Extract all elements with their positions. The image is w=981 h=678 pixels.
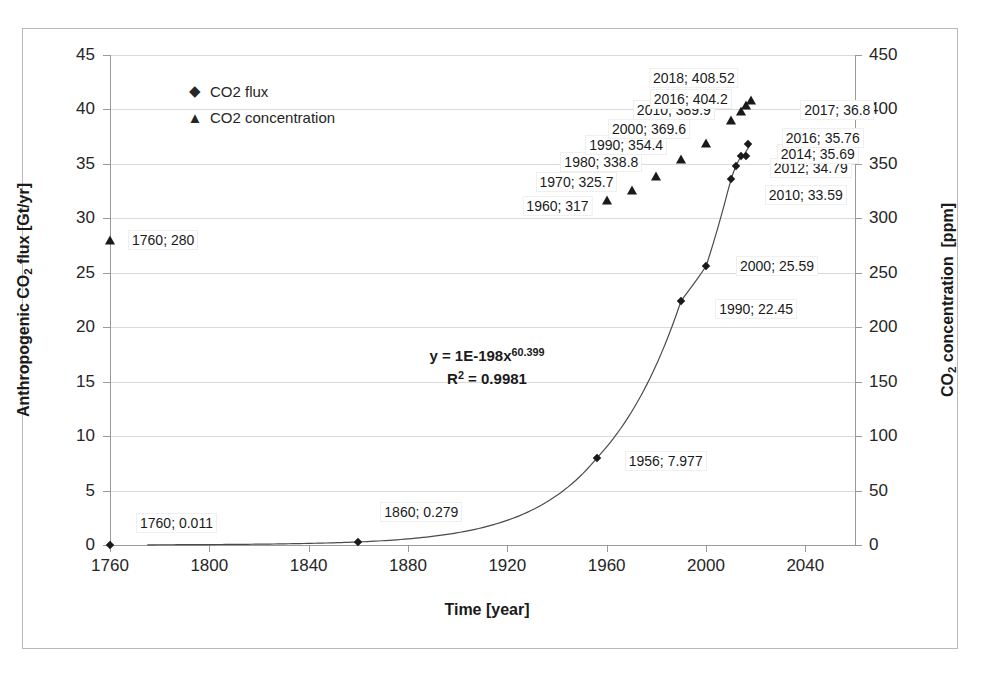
data-point-triangle (701, 138, 711, 147)
x-axis-tick-label: 2000 (687, 556, 725, 576)
y-axis-left-tick (103, 382, 110, 383)
y-axis-left-tick (103, 218, 110, 219)
x-axis-tick-label: 1800 (190, 556, 228, 576)
gridline (110, 491, 855, 492)
x-axis-tick-label: 1880 (389, 556, 427, 576)
y-axis-left-tick-label: 20 (76, 317, 95, 337)
data-point-triangle (651, 172, 661, 181)
x-axis-tick-label: 1920 (488, 556, 526, 576)
y-axis-right-tick (855, 273, 862, 274)
data-point-label: 2000; 25.59 (736, 256, 818, 276)
y-axis-left-tick (103, 491, 110, 492)
triangle-marker-icon: ▲ (186, 109, 204, 126)
y-axis-right-tick (855, 55, 862, 56)
diamond-marker-icon: ◆ (186, 82, 204, 100)
data-point-triangle (676, 155, 686, 164)
y-axis-left-tick-label: 5 (86, 481, 95, 501)
y-axis-right-tick (855, 218, 862, 219)
y-axis-right-tick (855, 327, 862, 328)
y-axis-right-tick (855, 436, 862, 437)
legend-item-co2-concentration: ▲ CO2 concentration (186, 104, 335, 130)
y-axis-right-tick-label: 450 (869, 45, 897, 65)
y-axis-left-title: Anthropogenic CO2 flux [Gt/yr] (15, 183, 33, 417)
y-axis-left-tick (103, 273, 110, 274)
y-axis-left-tick (103, 164, 110, 165)
x-axis-tick (309, 545, 310, 552)
equation-exponent: 60.399 (512, 346, 545, 358)
y-axis-left-tick (103, 327, 110, 328)
y-axis-right-tick-label: 350 (869, 154, 897, 174)
equation-text: y = 1E-198x (429, 347, 511, 364)
y-axis-left-tick-label: 15 (76, 372, 95, 392)
x-axis-line (110, 545, 855, 546)
chart-root: 051015202530354045 050100150200250300350… (0, 0, 981, 678)
gridline (110, 436, 855, 437)
x-axis-tick (209, 545, 210, 552)
x-axis-tick (408, 545, 409, 552)
legend-label-co2-concentration: CO2 concentration (210, 109, 335, 126)
y-axis-right-tick-label: 250 (869, 263, 897, 283)
y-axis-right-tick (855, 382, 862, 383)
legend-item-co2-flux: ◆ CO2 flux (186, 78, 335, 104)
data-point-label: 2018; 408.52 (649, 68, 739, 88)
gridline (110, 218, 855, 219)
x-axis-tick (805, 545, 806, 552)
data-point-label: 2000; 369.6 (608, 119, 690, 139)
data-point-label: 2017; 36.8 (800, 100, 874, 120)
data-point-triangle (602, 195, 612, 204)
legend-label-co2-flux: CO2 flux (210, 83, 268, 100)
r-squared-value: = 0.9981 (464, 370, 527, 387)
data-point-triangle (627, 186, 637, 195)
y-axis-left-tick (103, 436, 110, 437)
data-point-triangle (746, 96, 756, 105)
x-axis-title: Time [year] (444, 601, 529, 619)
trendline-equation: y = 1E-198x60.399 R2 = 0.9981 (429, 345, 544, 391)
x-axis-tick (706, 545, 707, 552)
x-axis-tick-label: 1840 (290, 556, 328, 576)
data-point-label: 2016; 35.76 (782, 128, 864, 148)
y-axis-left-tick (103, 55, 110, 56)
x-axis-tick (607, 545, 608, 552)
y-axis-right-tick-label: 300 (869, 208, 897, 228)
gridline (110, 327, 855, 328)
y-axis-right-title: CO2 concentration [ppm] (939, 203, 957, 397)
data-point-label: 1970; 325.7 (536, 172, 618, 192)
x-axis-tick-label: 2040 (786, 556, 824, 576)
gridline (110, 55, 855, 56)
x-axis-tick (507, 545, 508, 552)
data-point-triangle (726, 116, 736, 125)
y-axis-left-tick-label: 45 (76, 45, 95, 65)
data-point-label: 2010; 33.59 (765, 185, 847, 205)
y-axis-left-tick-label: 35 (76, 154, 95, 174)
y-axis-right-tick (855, 491, 862, 492)
r-squared-sup: 2 (458, 369, 464, 381)
data-point-label: 1960; 317 (522, 196, 592, 216)
y-axis-left-tick (103, 109, 110, 110)
data-point-label: 1760; 0.011 (136, 513, 217, 533)
y-axis-left-tick-label: 0 (86, 535, 95, 555)
r-squared-line: R2 = 0.9981 (429, 368, 544, 391)
data-point-label: 1860; 0.279 (380, 502, 462, 522)
x-axis-tick-label: 1960 (588, 556, 626, 576)
y-axis-left-tick-label: 30 (76, 208, 95, 228)
y-axis-left-tick-label: 10 (76, 426, 95, 446)
y-axis-left-tick-label: 40 (76, 99, 95, 119)
y-axis-right-tick-label: 0 (869, 535, 878, 555)
y-axis-right-tick (855, 545, 862, 546)
data-point-label: 2016; 404.2 (650, 89, 732, 109)
r-squared-prefix: R (447, 370, 458, 387)
equation-line: y = 1E-198x60.399 (429, 345, 544, 368)
gridline (110, 164, 855, 165)
data-point-label: 1956; 7.977 (625, 451, 707, 471)
data-point-triangle (105, 236, 115, 245)
x-axis-tick-label: 1760 (91, 556, 129, 576)
y-axis-right-tick-label: 150 (869, 372, 897, 392)
data-point-label: 1760; 280 (128, 230, 198, 250)
y-axis-right-tick-label: 200 (869, 317, 897, 337)
y-axis-left-line (110, 55, 111, 545)
data-point-label: 1990; 22.45 (715, 299, 797, 319)
y-axis-right-tick-label: 50 (869, 481, 888, 501)
y-axis-left-tick-label: 25 (76, 263, 95, 283)
chart-legend: ◆ CO2 flux ▲ CO2 concentration (186, 78, 335, 130)
y-axis-right-tick-label: 100 (869, 426, 897, 446)
